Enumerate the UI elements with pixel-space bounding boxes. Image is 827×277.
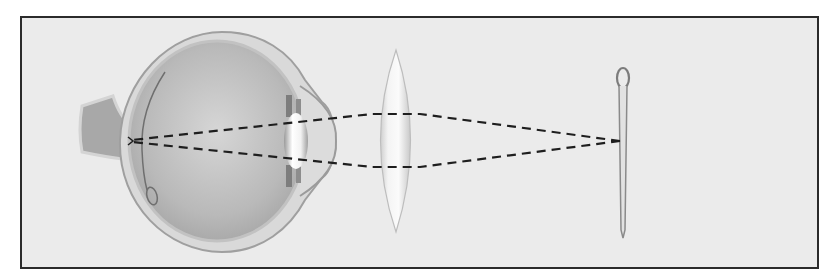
eye bbox=[120, 32, 336, 252]
iris-bottom bbox=[286, 165, 292, 187]
iris-top bbox=[286, 95, 292, 117]
needle bbox=[617, 68, 629, 238]
needle-eye bbox=[617, 68, 629, 88]
eye-lens-diagram bbox=[0, 0, 827, 277]
convex-lens bbox=[381, 50, 411, 232]
